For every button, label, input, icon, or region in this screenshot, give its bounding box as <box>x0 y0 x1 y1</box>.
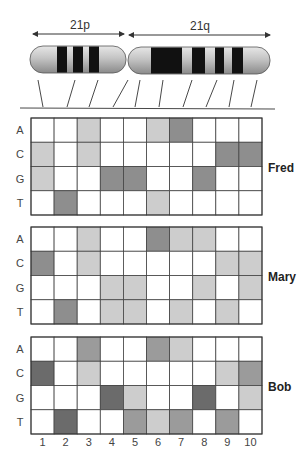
baseline <box>20 108 275 109</box>
row-label: T <box>17 197 24 209</box>
grid-cell <box>239 167 262 191</box>
grid-cell <box>216 337 239 361</box>
locus-line <box>67 80 75 107</box>
locus-line <box>183 80 192 107</box>
grid-cell <box>123 410 146 434</box>
genotype-grids: ACGTFredACGTMaryACGTBob <box>16 118 297 434</box>
grid-cell <box>170 276 193 300</box>
locus-line <box>206 80 217 107</box>
grid-cell <box>147 361 170 385</box>
grid-cell <box>123 191 146 215</box>
grid-cell <box>54 337 77 361</box>
locus-line <box>89 80 98 107</box>
grid-cell <box>216 410 239 434</box>
grid-cell <box>147 251 170 275</box>
grid-cell <box>193 276 216 300</box>
band <box>73 47 83 73</box>
grid-cell <box>193 167 216 191</box>
grid-cell <box>170 142 193 166</box>
row-label: A <box>16 343 24 355</box>
grid-cell <box>216 191 239 215</box>
grid-cell <box>77 410 100 434</box>
row-label: A <box>16 233 24 245</box>
grid-cell <box>123 300 146 324</box>
grid-cell <box>31 227 54 251</box>
grid-cell <box>193 191 216 215</box>
grid-cell <box>193 337 216 361</box>
grid-cell <box>147 191 170 215</box>
grid-cell <box>77 337 100 361</box>
row-label: C <box>16 367 24 379</box>
grid-cell <box>193 300 216 324</box>
column-labels: 12345678910 <box>39 436 256 448</box>
grid-cell <box>31 410 54 434</box>
grid-cell <box>31 276 54 300</box>
grid-cell <box>123 167 146 191</box>
grid-cell <box>100 300 123 324</box>
grid-cell <box>147 167 170 191</box>
grid-cell <box>193 386 216 410</box>
grid-cell <box>193 410 216 434</box>
grid-cell <box>100 118 123 142</box>
grid-cell <box>216 118 239 142</box>
column-label: 8 <box>201 436 207 448</box>
row-label: A <box>16 124 24 136</box>
grid-cell <box>170 251 193 275</box>
grid-cell <box>123 386 146 410</box>
arm-p-label: 21p <box>70 18 90 32</box>
individual-name: Mary <box>268 270 296 284</box>
row-label: C <box>16 257 24 269</box>
column-label: 9 <box>224 436 230 448</box>
grid-cell <box>123 276 146 300</box>
grid-cell <box>147 410 170 434</box>
grid-cell <box>170 337 193 361</box>
grid-cell <box>147 300 170 324</box>
grid-cell <box>123 337 146 361</box>
locus-line <box>159 80 163 107</box>
grid-cell <box>77 386 100 410</box>
locus-line <box>229 80 234 107</box>
grid-cell <box>54 167 77 191</box>
individual-name: Fred <box>268 161 294 175</box>
grid-cell <box>54 142 77 166</box>
grid-cell <box>77 251 100 275</box>
grid-cell <box>239 118 262 142</box>
grid-cell <box>170 227 193 251</box>
grid-cell <box>147 118 170 142</box>
grid-cell <box>77 300 100 324</box>
grid-cell <box>239 337 262 361</box>
grid-cell <box>100 227 123 251</box>
grid-cell <box>239 386 262 410</box>
grid-cell <box>54 386 77 410</box>
grid-cell <box>123 251 146 275</box>
genotype-grid-fred: ACGTFred <box>16 118 294 215</box>
row-label: C <box>16 148 24 160</box>
grid-cell <box>193 227 216 251</box>
grid-cell <box>31 167 54 191</box>
grid-cell <box>193 251 216 275</box>
grid-cell <box>147 337 170 361</box>
locus-line <box>251 80 257 107</box>
band <box>215 48 224 74</box>
grid-cell <box>77 191 100 215</box>
grid-cell <box>239 300 262 324</box>
grid-cell <box>100 167 123 191</box>
grid-cell <box>147 276 170 300</box>
band <box>89 47 99 73</box>
grid-cell <box>100 386 123 410</box>
grid-cell <box>54 227 77 251</box>
column-label: 1 <box>39 436 45 448</box>
row-label: G <box>16 392 25 404</box>
grid-cell <box>216 227 239 251</box>
grid-cell <box>100 251 123 275</box>
chromosome-snp-diagram: 21p 21q ACGTFredACGTMaryACGTBob 12345678… <box>0 0 306 465</box>
arm-p-annotation: 21p <box>33 18 124 34</box>
grid-cell <box>170 361 193 385</box>
grid-cell <box>147 386 170 410</box>
grid-cell <box>216 276 239 300</box>
grid-cell <box>100 410 123 434</box>
grid-cell <box>239 276 262 300</box>
grid-cell <box>31 361 54 385</box>
grid-cell <box>31 191 54 215</box>
grid-cell <box>54 118 77 142</box>
